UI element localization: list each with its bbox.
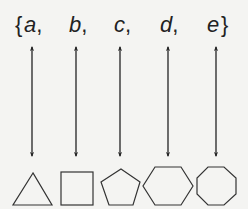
octagon-icon — [197, 167, 236, 205]
square-icon — [61, 172, 93, 205]
pentagon-icon — [101, 169, 140, 205]
triangle-icon — [13, 173, 52, 205]
hexagon-icon — [143, 167, 193, 205]
diagram-graphics — [0, 0, 248, 209]
